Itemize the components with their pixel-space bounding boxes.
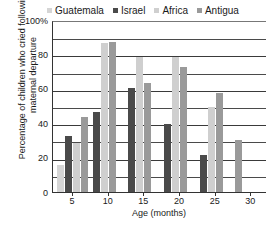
legend-entry[interactable]: Israel	[113, 6, 145, 16]
bar[interactable]	[65, 136, 72, 193]
bar[interactable]	[208, 107, 215, 193]
chart-legend: GuatemalaIsraelAfricaAntigua	[47, 4, 269, 17]
y-tick-label: 20	[38, 154, 48, 163]
bar-group	[128, 22, 151, 193]
legend-label: Africa	[162, 6, 188, 16]
x-axis-title: Age (months)	[52, 208, 266, 219]
legend-label: Guatemala	[55, 6, 104, 16]
x-axis-tick-labels: 51015202530	[52, 193, 266, 207]
bar[interactable]	[128, 88, 135, 193]
legend-entry[interactable]: Guatemala	[47, 6, 104, 16]
bars-layer	[53, 22, 266, 193]
bar[interactable]	[101, 43, 108, 193]
bar[interactable]	[136, 57, 143, 193]
y-tick-label: 80	[38, 51, 48, 60]
bar[interactable]	[235, 140, 242, 193]
bar[interactable]	[109, 42, 116, 193]
bar[interactable]	[172, 57, 179, 193]
legend-label: Israel	[121, 6, 145, 16]
legend-entry[interactable]: Antigua	[197, 6, 239, 16]
bar[interactable]	[164, 124, 171, 193]
x-tick-label: 25	[210, 196, 220, 206]
legend-entry[interactable]: Africa	[154, 6, 188, 16]
y-tick-label: 60	[38, 85, 48, 94]
y-tick-label: 40	[38, 120, 48, 129]
bar-group	[235, 22, 242, 193]
bar[interactable]	[81, 117, 88, 193]
x-tick-label: 15	[138, 196, 148, 206]
bar[interactable]	[180, 67, 187, 193]
bar[interactable]	[144, 83, 151, 193]
bar[interactable]	[93, 112, 100, 193]
legend-swatch-icon	[113, 8, 118, 13]
legend-label: Antigua	[205, 6, 239, 16]
bar-group	[164, 22, 187, 193]
x-tick-label: 30	[245, 196, 255, 206]
bar[interactable]	[200, 155, 207, 193]
plot-area	[52, 21, 266, 193]
y-tick-label: 100%	[25, 17, 48, 26]
bar[interactable]	[73, 143, 80, 193]
x-tick-label: 5	[69, 196, 74, 206]
bar-chart: GuatemalaIsraelAfricaAntigua Percentage …	[0, 0, 271, 235]
bar[interactable]	[57, 165, 64, 193]
bar-group	[93, 22, 116, 193]
bar-group	[200, 22, 223, 193]
legend-swatch-icon	[197, 8, 202, 13]
x-tick-label: 10	[103, 196, 113, 206]
x-tick-label: 20	[174, 196, 184, 206]
bar[interactable]	[216, 93, 223, 193]
y-tick-label: 0	[43, 189, 48, 198]
bar-group	[57, 22, 88, 193]
y-axis-tick-labels: 020406080100%	[20, 16, 50, 196]
legend-swatch-icon	[154, 8, 159, 13]
legend-swatch-icon	[47, 8, 52, 13]
